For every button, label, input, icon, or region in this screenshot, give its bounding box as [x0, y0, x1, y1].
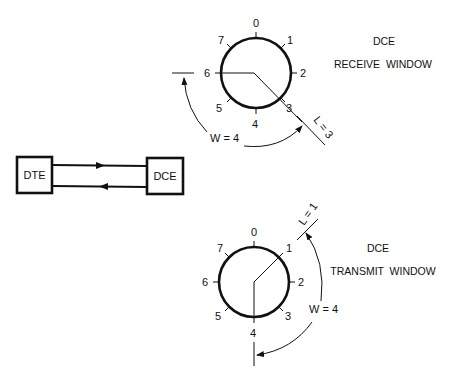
- receive-window-size-label: W = 4: [210, 132, 239, 144]
- link-diagram: DTE DCE: [17, 157, 183, 194]
- transmit-window-pointer: [254, 257, 279, 317]
- transmit-lower-edge-label: L = 1: [296, 200, 320, 227]
- receive-seq-3: 3: [286, 102, 292, 114]
- transmit-window-dial: 0 1 2 3 4 5 6 7 L = 1 W = 4 DCE TRANSMIT…: [202, 200, 436, 366]
- receive-seq-0: 0: [253, 17, 259, 29]
- transmit-seq-2: 2: [298, 276, 304, 288]
- transmit-seq-7: 7: [217, 242, 223, 254]
- transmit-window-size-label: W = 4: [309, 303, 338, 315]
- transmit-seq-1: 1: [286, 242, 292, 254]
- receive-station-label: DCE: [373, 35, 395, 47]
- sliding-window-diagram: DTE DCE 0 1 2 3 4 5 6 7: [0, 0, 452, 380]
- transmit-seq-3: 3: [285, 310, 291, 322]
- dte-label: DTE: [24, 169, 46, 181]
- bottom-link-arrow-icon: [99, 183, 108, 190]
- transmit-station-label: DCE: [367, 242, 389, 254]
- receive-seq-1: 1: [287, 34, 293, 46]
- receive-lower-edge-label: L = 3: [311, 114, 335, 141]
- receive-seq-7: 7: [218, 34, 224, 46]
- transmit-seq-5: 5: [215, 310, 221, 322]
- dce-label: DCE: [153, 170, 176, 182]
- receive-seq-4: 4: [252, 118, 258, 130]
- transmit-seq-4: 4: [250, 327, 256, 339]
- receive-window-dial: 0 1 2 3 4 5 6 7 L = 3 W = 4 DCE RECEIVE …: [172, 17, 432, 147]
- transmit-window-arc-up-arrow-icon: [306, 233, 322, 301]
- receive-seq-5: 5: [216, 102, 222, 114]
- receive-seq-6: 6: [204, 67, 210, 79]
- receive-seq-2: 2: [300, 67, 306, 79]
- transmit-window-title: TRANSMIT WINDOW: [330, 265, 435, 277]
- receive-window-title: RECEIVE WINDOW: [334, 58, 432, 70]
- receive-window-arc-left-arrow-icon: [184, 78, 207, 132]
- transmit-seq-6: 6: [202, 276, 208, 288]
- transmit-window-arc-down-arrow-icon: [257, 322, 312, 355]
- top-link-arrow-icon: [96, 162, 105, 169]
- transmit-seq-0: 0: [251, 226, 257, 238]
